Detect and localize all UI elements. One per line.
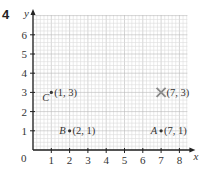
x-tick-label: 8 [177,154,183,166]
x-tick-label: 3 [85,154,91,166]
y-tick-label: 2 [22,106,28,118]
x-tick-label: 4 [103,154,109,166]
point-dot-icon [68,129,71,132]
x-tick-label: 2 [67,154,73,166]
y-axis-arrow-icon [31,9,36,15]
y-tick-label: 4 [22,67,28,79]
point-coordinate-label: (7, 1) [164,125,187,137]
y-tick-label: 3 [22,86,28,98]
x-tick-label: 5 [122,154,128,166]
x-axis-label: x [192,150,198,162]
x-tick-label: 1 [49,154,55,166]
x-tick-label: 6 [140,154,146,166]
point-coordinate-label: (1, 3) [54,87,77,99]
coordinate-grid: xy012345678123456(7, 1)A(2, 1)B(1, 3)C(7… [0,0,201,169]
point-coordinate-label: (7, 3) [167,87,190,99]
y-tick-label: 6 [22,29,28,41]
point-name-label: C [42,92,50,103]
y-axis-label: y [23,7,29,19]
point-name-label: A [150,125,158,136]
origin-label: 0 [21,152,27,164]
y-tick-label: 5 [22,48,28,60]
y-tick-label: 1 [22,125,28,137]
point-name-label: B [59,125,66,136]
point-coordinate-label: (2, 1) [73,125,96,137]
point-dot-icon [160,129,163,132]
point-dot-icon [50,91,53,94]
x-tick-label: 7 [158,154,164,166]
